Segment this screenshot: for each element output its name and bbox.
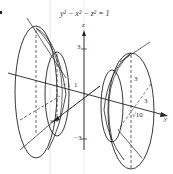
hyperboloid-figure: y² − x² − z² = 1 z y x 3 −3 −1 1 3 3 √10 (0, 0, 173, 174)
y-axis-label: y (164, 116, 167, 123)
bullet-marker (0, 11, 2, 14)
y-axis (8, 73, 164, 115)
right-vertical-tick-3: 3 (134, 76, 138, 83)
z-axis-label: z (82, 22, 85, 29)
y-tick-neg1: −1 (63, 82, 70, 89)
z-axis-arrow (82, 30, 86, 36)
right-depth-tick-3: 3 (144, 98, 148, 105)
equation-label: y² − x² − z² = 1 (60, 9, 110, 18)
z-tick-neg3: −3 (74, 135, 81, 142)
x-axis-label: x (50, 118, 53, 125)
hyperboloid-plot (0, 0, 173, 174)
z-tick-3: 3 (77, 44, 81, 51)
y-tick-sqrt10: √10 (132, 112, 143, 119)
y-tick-1: 1 (74, 82, 78, 89)
